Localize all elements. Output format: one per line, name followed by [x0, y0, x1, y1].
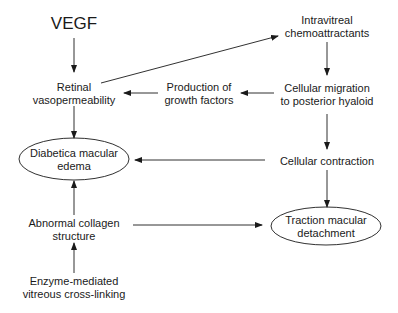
- node-abnormal-collagen: Abnormal collagen structure: [28, 217, 119, 242]
- node-label: Cellular migration: [281, 82, 374, 95]
- node-label: structure: [28, 229, 119, 242]
- node-label: edema: [30, 159, 118, 172]
- node-intravitreal-chemoattractants: Intravitreal chemoattractants: [285, 14, 369, 39]
- node-cellular-migration: Cellular migration to posterior hyaloid: [281, 82, 374, 107]
- node-production-growth-factors: Production of growth factors: [164, 81, 233, 106]
- node-label: growth factors: [164, 93, 233, 106]
- node-label: vasopermeability: [33, 93, 116, 106]
- node-traction-macular-detachment: Traction macular detachment: [285, 214, 367, 239]
- node-label: vitreous cross-linking: [23, 287, 126, 300]
- node-label: Enzyme-mediated: [23, 275, 126, 288]
- node-enzyme-cross-linking: Enzyme-mediated vitreous cross-linking: [23, 275, 126, 300]
- edge-retinal-to-intravitreal: [101, 36, 278, 83]
- node-retinal-vasopermeability: Retinal vasopermeability: [33, 81, 116, 106]
- node-diabetic-macular-edema: Diabetica macular edema: [30, 147, 118, 172]
- node-label: Traction macular: [285, 214, 367, 227]
- node-label: Cellular contraction: [280, 155, 374, 168]
- node-label: chemoattractants: [285, 26, 369, 39]
- node-cellular-contraction: Cellular contraction: [280, 155, 374, 168]
- node-label: VEGF: [51, 15, 97, 33]
- node-vegf: VEGF: [51, 15, 97, 33]
- node-label: Retinal: [33, 81, 116, 94]
- node-label: Abnormal collagen: [28, 217, 119, 230]
- node-label: detachment: [285, 226, 367, 239]
- node-label: Production of: [164, 81, 233, 94]
- node-label: Intravitreal: [285, 14, 369, 27]
- node-label: to posterior hyaloid: [281, 94, 374, 107]
- node-label: Diabetica macular: [30, 147, 118, 160]
